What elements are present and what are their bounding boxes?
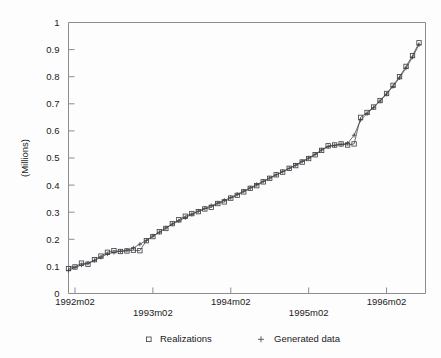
y-tick-label: 0.9 — [46, 44, 59, 55]
y-tick-label: 1 — [54, 17, 59, 28]
chart-container: 00.10.20.30.40.50.60.70.80.91(Millions)1… — [0, 0, 441, 358]
legend-label-generated-data: Generated data — [274, 333, 341, 344]
y-tick-label: 0.4 — [46, 180, 59, 191]
y-tick-label: 0.7 — [46, 98, 59, 109]
y-tick-label: 0.2 — [46, 234, 59, 245]
x-tick-label: 1992m02 — [55, 296, 95, 307]
legend-label-realizations: Realizations — [160, 333, 212, 344]
timeseries-chart: 00.10.20.30.40.50.60.70.80.91(Millions)1… — [0, 0, 441, 358]
generated-data-markers — [66, 43, 421, 273]
generated-data-line — [69, 45, 420, 271]
y-tick-label: 0.1 — [46, 261, 59, 272]
plot-frame — [69, 23, 426, 294]
realizations-markers — [66, 41, 421, 271]
y-tick-label: 0.6 — [46, 125, 59, 136]
x-tick-label: 1995m02 — [289, 307, 329, 318]
y-axis-title: (Millions) — [19, 139, 30, 177]
legend-square-icon — [147, 337, 152, 342]
y-tick-label: 0.8 — [46, 71, 59, 82]
realizations-line — [69, 43, 420, 269]
x-tick-label: 1993m02 — [133, 307, 173, 318]
y-tick-label: 0.5 — [46, 152, 59, 163]
x-tick-label: 1996m02 — [367, 296, 407, 307]
y-tick-label: 0.3 — [46, 207, 59, 218]
x-tick-label: 1994m02 — [211, 296, 251, 307]
